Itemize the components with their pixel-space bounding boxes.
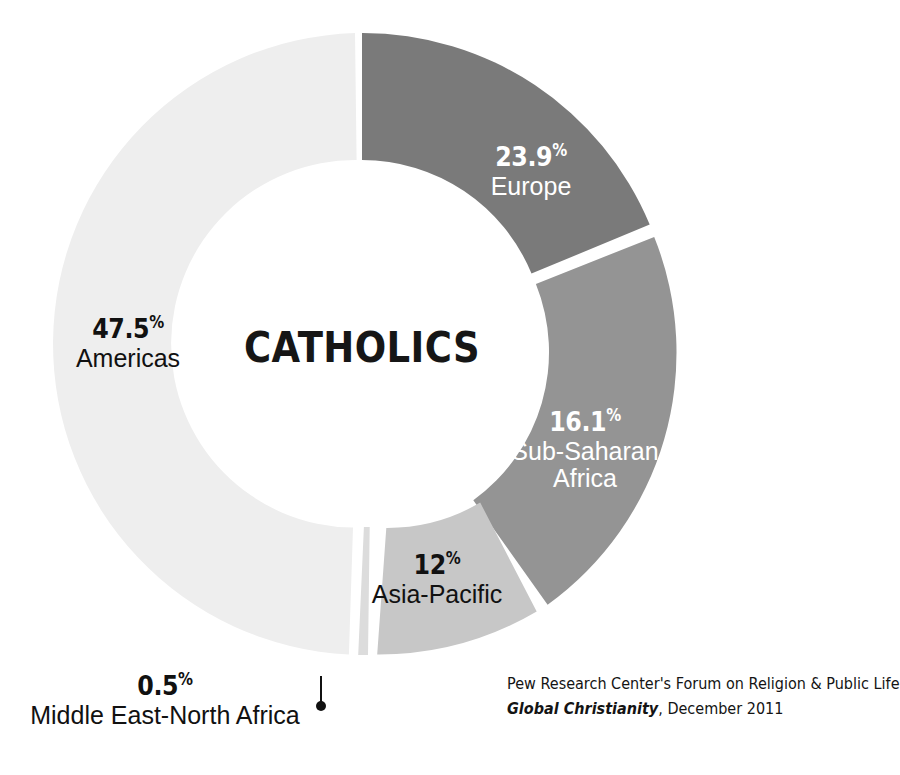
slice-percent-sub-saharan-africa: 16.1% [488,408,682,436]
slice-region-asia-pacific: Asia-Pacific [322,581,552,607]
slice-region-sub-saharan-africa: Sub-SaharanAfrica [475,438,695,491]
source-publication-title: Global Christianity [507,700,658,718]
slice-label-americas: 47.5% Americas [18,315,238,372]
source-publication-line: Global Christianity, December 2011 [507,697,870,722]
slice-percent-europe: 23.9% [443,143,619,171]
leader-line-icon [314,676,328,712]
slice-region-americas: Americas [18,345,238,371]
slice-label-asia-pacific: 12% Asia-Pacific [322,551,552,608]
slice-region-middle-east-north-africa: Middle East-North Africa [5,702,325,728]
donut-chart-svg [0,0,900,775]
slice-label-sub-saharan-africa: 16.1% Sub-SaharanAfrica [475,408,695,491]
chart-center-title: CATHOLICS [224,322,499,372]
slice-percent-americas: 47.5% [31,315,225,343]
slice-label-europe: 23.9% Europe [431,143,631,200]
source-date: , December 2011 [658,700,783,718]
slice-label-middle-east-north-africa: 0.5% Middle East-North Africa [5,672,325,729]
slice-region-europe: Europe [431,173,631,199]
donut-chart: 23.9% Europe 16.1% Sub-SaharanAfrica 12%… [0,0,900,775]
source-attribution: Pew Research Center's Forum on Religion … [507,672,870,722]
slice-percent-middle-east-north-africa: 0.5% [24,672,306,700]
source-organization: Pew Research Center's Forum on Religion … [507,672,870,697]
slice-percent-asia-pacific: 12% [336,551,538,579]
